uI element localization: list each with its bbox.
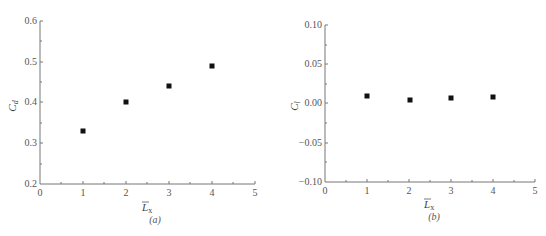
- svg-text:4: 4: [210, 187, 215, 198]
- series-cd: [81, 64, 215, 134]
- svg-text:5: 5: [253, 187, 258, 198]
- svg-text:0.3: 0.3: [25, 137, 38, 148]
- data-point: [491, 95, 496, 100]
- svg-text:0.4: 0.4: [25, 96, 38, 107]
- y-tick-labels-a: 0.2 0.3 0.4 0.5 0.6: [25, 15, 38, 189]
- svg-text:2: 2: [407, 185, 412, 196]
- svg-text:0.05: 0.05: [305, 58, 323, 69]
- data-point: [449, 96, 454, 101]
- svg-text:3: 3: [167, 187, 172, 198]
- svg-text:3: 3: [449, 185, 454, 196]
- data-point: [124, 100, 129, 105]
- x-axis-label-a: Lx: [141, 201, 152, 215]
- panel-a: 0.2 0.3 0.4 0.5 0.6 0 1 2 3 4 5: [6, 15, 258, 226]
- svg-text:−0.10: −0.10: [299, 176, 322, 187]
- svg-text:0: 0: [38, 187, 43, 198]
- y-axis-label-b: Cl: [288, 100, 302, 110]
- svg-text:4: 4: [491, 185, 496, 196]
- series-cl: [365, 94, 496, 103]
- svg-text:0.2: 0.2: [25, 178, 38, 189]
- x-tick-labels-a: 0 1 2 3 4 5: [38, 187, 258, 198]
- svg-text:5: 5: [533, 185, 538, 196]
- data-point: [167, 84, 172, 89]
- data-point: [365, 94, 370, 99]
- svg-text:Cl: Cl: [288, 100, 302, 110]
- svg-text:−0.05: −0.05: [299, 137, 322, 148]
- x-axis-label-b: Lx: [423, 198, 434, 212]
- svg-text:0: 0: [323, 185, 328, 196]
- svg-text:Lx: Lx: [141, 201, 152, 215]
- caption-b: (b): [428, 211, 440, 223]
- x-tick-labels-b: 0 1 2 3 4 5: [323, 185, 538, 196]
- y-tick-labels-b: −0.10 −0.05 0.00 0.05 0.10: [299, 19, 322, 187]
- data-point: [81, 129, 86, 134]
- svg-text:0.10: 0.10: [305, 19, 323, 30]
- svg-text:0.5: 0.5: [25, 56, 38, 67]
- svg-text:Cd: Cd: [6, 99, 20, 111]
- y-axis-label-a: Cd: [6, 99, 20, 111]
- caption-a: (a): [149, 214, 161, 226]
- panel-b: −0.10 −0.05 0.00 0.05 0.10 0 1 2 3 4 5: [288, 19, 538, 223]
- figure: 0.2 0.3 0.4 0.5 0.6 0 1 2 3 4 5: [0, 0, 546, 236]
- data-point: [408, 98, 413, 103]
- svg-text:0.00: 0.00: [305, 97, 323, 108]
- svg-text:0.6: 0.6: [25, 15, 38, 26]
- svg-text:1: 1: [81, 187, 86, 198]
- svg-text:Lx: Lx: [423, 198, 434, 212]
- data-point: [210, 64, 215, 69]
- svg-text:2: 2: [124, 187, 129, 198]
- svg-text:1: 1: [365, 185, 370, 196]
